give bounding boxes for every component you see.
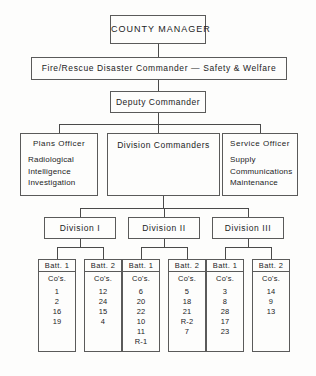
division-2-label: Division II	[129, 218, 199, 238]
company-number: 17	[207, 317, 243, 327]
disaster-commander-label: Fire/Rescue Disaster Commander — Safety …	[32, 58, 286, 79]
div2-batt-1-units-header: Co's.	[123, 272, 159, 285]
county-manager-label: COUNTY MANAGER	[111, 16, 205, 43]
connector-division-2-stem	[164, 239, 165, 247]
connector-to-div2-batt-1	[141, 247, 142, 259]
connector-division-2-bus	[141, 247, 188, 248]
company-number: 2	[39, 297, 75, 307]
deputy-commander-box: Deputy Commander	[110, 91, 206, 113]
division-commanders-title: Division Commanders	[108, 140, 219, 150]
company-number: 5	[169, 287, 205, 297]
connector-to-division-3	[248, 208, 249, 217]
plans-officer-function: Intelligence	[28, 166, 97, 178]
div2-batt-2-box: Batt. 2 Co's. 5 18 21 R-2 7	[168, 259, 206, 352]
company-number: 8	[207, 297, 243, 307]
div1-batt-1-label: Batt. 1	[39, 260, 75, 272]
company-number: 14	[253, 287, 289, 297]
connector-to-division-1	[80, 208, 81, 217]
connector-division-3-stem	[248, 239, 249, 247]
div2-batt-1-unit-list: 6 20 22 10 11 R-1	[123, 287, 159, 347]
county-manager-box: COUNTY MANAGER	[110, 15, 206, 44]
service-officer-function: Communications	[230, 166, 297, 178]
company-number: 18	[169, 297, 205, 307]
connector-staff-bus	[59, 124, 260, 125]
div3-batt-1-units-header: Co's.	[207, 272, 243, 285]
div1-batt-2-unit-list: 12 24 15 4	[85, 287, 121, 327]
company-number: 16	[39, 307, 75, 317]
plans-officer-title: Plans Officer	[21, 139, 97, 148]
div1-batt-1-units-header: Co's.	[39, 272, 75, 285]
company-number: 12	[85, 287, 121, 297]
division-2-box: Division II	[128, 217, 200, 239]
company-number: 19	[39, 317, 75, 327]
connector-command-to-deputy	[158, 80, 159, 91]
service-officer-box: Service Officer Supply Communications Ma…	[222, 133, 298, 196]
service-officer-function-list: Supply Communications Maintenance	[223, 154, 297, 189]
company-number: 24	[85, 297, 121, 307]
company-number: 9	[253, 297, 289, 307]
div2-batt-2-label: Batt. 2	[169, 260, 205, 272]
div1-batt-1-box: Batt. 1 Co's. 1 2 16 19	[38, 259, 76, 352]
div1-batt-1-unit-list: 1 2 16 19	[39, 287, 75, 327]
connector-to-div1-batt-1	[57, 247, 58, 259]
company-number: R-1	[123, 337, 159, 347]
connector-to-div3-batt-1	[225, 247, 226, 259]
div3-batt-2-box: Batt. 2 Co's. 14 9 13	[252, 259, 290, 352]
company-number: 3	[207, 287, 243, 297]
plans-officer-function-list: Radiological Intelligence Investigation	[21, 154, 97, 189]
div2-batt-1-label: Batt. 1	[123, 260, 159, 272]
company-number: 23	[207, 327, 243, 337]
company-number: 22	[123, 307, 159, 317]
connector-division-1-stem	[80, 239, 81, 247]
division-3-box: Division III	[212, 217, 284, 239]
div3-batt-1-label: Batt. 1	[207, 260, 243, 272]
div3-batt-2-unit-list: 14 9 13	[253, 287, 289, 317]
connector-to-division-2	[164, 208, 165, 217]
div3-batt-1-unit-list: 3 8 28 17 23	[207, 287, 243, 337]
div3-batt-2-label: Batt. 2	[253, 260, 289, 272]
connector-to-plans-officer	[59, 124, 60, 133]
company-number: 11	[123, 327, 159, 337]
company-number: 6	[123, 287, 159, 297]
connector-divcmd-stem	[163, 196, 164, 208]
plans-officer-function: Investigation	[28, 177, 97, 189]
company-number: 15	[85, 307, 121, 317]
company-number: 13	[253, 307, 289, 317]
company-number: 4	[85, 317, 121, 327]
disaster-commander-box: Fire/Rescue Disaster Commander — Safety …	[31, 57, 287, 80]
company-number: 21	[169, 307, 205, 317]
connector-to-div2-batt-2	[187, 247, 188, 259]
division-1-box: Division I	[44, 217, 116, 239]
division-3-label: Division III	[213, 218, 283, 238]
connector-division-3-bus	[225, 247, 272, 248]
div1-batt-2-units-header: Co's.	[85, 272, 121, 285]
deputy-commander-label: Deputy Commander	[111, 92, 205, 112]
company-number: R-2	[169, 317, 205, 327]
div2-batt-2-units-header: Co's.	[169, 272, 205, 285]
connector-to-div3-batt-2	[271, 247, 272, 259]
service-officer-function: Maintenance	[230, 177, 297, 189]
division-commanders-box: Division Commanders	[107, 133, 220, 196]
div1-batt-2-label: Batt. 2	[85, 260, 121, 272]
division-1-label: Division I	[45, 218, 115, 238]
company-number: 10	[123, 317, 159, 327]
company-number: 1	[39, 287, 75, 297]
connector-deputy-stem	[158, 113, 159, 124]
connector-county-to-command	[158, 44, 159, 57]
service-officer-title: Service Officer	[223, 139, 297, 148]
company-number: 7	[169, 327, 205, 337]
div2-batt-2-unit-list: 5 18 21 R-2 7	[169, 287, 205, 337]
div3-batt-2-units-header: Co's.	[253, 272, 289, 285]
div2-batt-1-box: Batt. 1 Co's. 6 20 22 10 11 R-1	[122, 259, 160, 352]
connector-to-service-officer	[260, 124, 261, 133]
plans-officer-function: Radiological	[28, 154, 97, 166]
div1-batt-2-box: Batt. 2 Co's. 12 24 15 4	[84, 259, 122, 352]
div3-batt-1-box: Batt. 1 Co's. 3 8 28 17 23	[206, 259, 244, 352]
org-chart: COUNTY MANAGER Fire/Rescue Disaster Comm…	[0, 0, 316, 376]
connector-to-division-commanders	[158, 124, 159, 133]
connector-division-1-bus	[57, 247, 104, 248]
company-number: 20	[123, 297, 159, 307]
plans-officer-box: Plans Officer Radiological Intelligence …	[20, 133, 98, 196]
connector-to-div1-batt-2	[103, 247, 104, 259]
service-officer-function: Supply	[230, 154, 297, 166]
